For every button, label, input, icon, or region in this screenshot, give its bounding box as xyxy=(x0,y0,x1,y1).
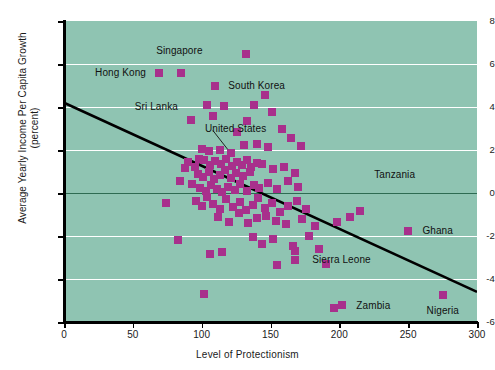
x-tick-label: 250 xyxy=(388,329,428,340)
y-tick xyxy=(58,322,63,324)
y-tick xyxy=(58,64,63,66)
annotation-label: Sri Lanka xyxy=(135,101,178,112)
annotation-label: Nigeria xyxy=(427,305,459,316)
x-tick xyxy=(271,322,273,328)
annotation-label: Singapore xyxy=(156,45,203,56)
x-tick xyxy=(202,322,204,328)
x-tick-label: 100 xyxy=(182,329,222,340)
x-axis-title: Level of Protectionism xyxy=(0,349,495,360)
x-tick-label: 200 xyxy=(319,329,359,340)
y-tick xyxy=(58,236,63,238)
y-tick xyxy=(58,193,63,195)
scatter-plot-figure: -6-4-202468 050100150200250300 Singapore… xyxy=(0,0,495,370)
annotation-label: Ghana xyxy=(422,225,453,236)
annotation-label: South Korea xyxy=(228,80,285,91)
y-tick xyxy=(58,150,63,152)
annotation-label: Tanzania xyxy=(374,169,415,180)
x-tick-label: 300 xyxy=(457,329,495,340)
y-tick xyxy=(58,279,63,281)
annotation-label: Zambia xyxy=(356,300,390,311)
y-axis-title-line2: (percent) xyxy=(29,108,40,149)
x-tick-label: 50 xyxy=(113,329,153,340)
x-tick xyxy=(133,322,135,328)
annotation-label: Hong Kong xyxy=(95,67,146,78)
y-axis-title-line1: Average Yearly Income Per Capita Growth xyxy=(17,32,28,224)
y-tick xyxy=(58,21,63,23)
x-tick xyxy=(339,322,341,328)
x-tick xyxy=(477,322,479,328)
x-tick-label: 0 xyxy=(44,329,84,340)
annotation-label: Sierra Leone xyxy=(312,254,370,265)
x-tick-label: 150 xyxy=(251,329,291,340)
y-axis-title: Average Yearly Income Per Capita Growth … xyxy=(17,13,41,243)
y-tick xyxy=(58,107,63,109)
annotation-label: United States xyxy=(205,123,266,134)
x-tick xyxy=(64,322,66,328)
x-tick xyxy=(408,322,410,328)
